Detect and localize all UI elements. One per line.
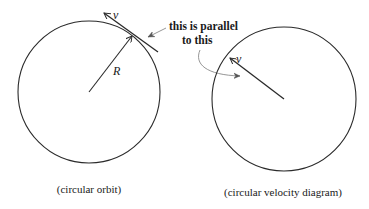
circular-velocity-figure: v: [212, 27, 356, 171]
caption-circular-orbit: (circular orbit): [57, 183, 122, 196]
curved-pointer-arrow-icon: [199, 50, 240, 76]
circular-orbit-figure: R v: [18, 8, 160, 163]
annotation-line1: this is parallel: [169, 20, 238, 33]
velocity-label-diagram: v: [236, 52, 242, 66]
orbit-velocity-diagram: R v this is parallel to this v (circular…: [0, 0, 369, 209]
radius-vector-arrow: [89, 36, 132, 92]
caption-circular-velocity-diagram: (circular velocity diagram): [224, 186, 342, 199]
pointer-arrow-to-tangent-icon: [148, 28, 166, 37]
velocity-label-orbit: v: [113, 8, 119, 22]
annotation-line2: to this: [182, 34, 213, 46]
radius-label: R: [112, 64, 121, 78]
parallel-annotation: this is parallel to this: [148, 20, 240, 76]
